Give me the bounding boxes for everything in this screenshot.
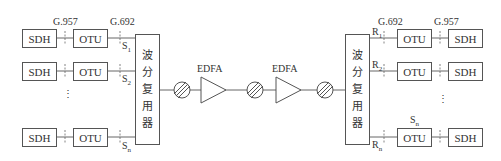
otu-box-rx-1: OTU	[397, 29, 432, 48]
ref-point-rn: Rn	[372, 140, 382, 151]
sdh-box-rx-2: SDH	[448, 62, 483, 81]
interface-label-g692-right: G.692	[378, 17, 403, 27]
ellipsis-rx: ⋮	[438, 97, 448, 101]
edfa-label-1: EDFA	[197, 64, 222, 74]
otu-box-rx-n: OTU	[397, 128, 432, 147]
mux-char: 用	[142, 98, 153, 115]
attenuator-icon	[317, 82, 333, 98]
ref-point-s1: S1	[122, 41, 131, 52]
edfa-label-2: EDFA	[272, 64, 297, 74]
otu-box-tx-2: OTU	[73, 62, 108, 81]
mux-char: 器	[142, 115, 153, 132]
attenuator-icon	[247, 82, 263, 98]
ref-point-r1: R1	[372, 27, 382, 38]
sdh-box-tx-n: SDH	[22, 128, 57, 147]
sdh-box-rx-n: SDH	[448, 128, 483, 147]
ellipsis-tx: ⋮	[63, 92, 73, 96]
ref-point-s2: S2	[122, 74, 131, 85]
sdh-box-tx-2: SDH	[22, 62, 57, 81]
demux-char: 器	[352, 115, 363, 132]
edfa-amplifier-icon	[201, 77, 226, 103]
edfa-amplifier-icon	[276, 77, 301, 103]
ref-point-sn-right: Sn	[410, 115, 419, 126]
demux-char: 波	[352, 47, 363, 64]
mux-char: 波	[142, 47, 153, 64]
ref-point-r2: R2	[372, 60, 382, 71]
ref-point-sn: Sn	[122, 141, 131, 152]
mux-char: 复	[142, 81, 153, 98]
demux-char: 复	[352, 81, 363, 98]
sdh-box-rx-1: SDH	[448, 29, 483, 48]
mux-char: 分	[142, 64, 153, 81]
otu-box-tx-1: OTU	[73, 29, 108, 48]
interface-label-g692-left: G.692	[110, 17, 135, 27]
demux-char: 分	[352, 64, 363, 81]
interface-label-g957-right: G.957	[434, 17, 459, 27]
wavelength-demultiplexer: 波 分 复 用 器	[345, 34, 370, 145]
wavelength-multiplexer: 波 分 复 用 器	[135, 34, 160, 145]
otu-box-tx-n: OTU	[73, 128, 108, 147]
interface-label-g957-left: G.957	[53, 17, 78, 27]
attenuator-icon	[174, 82, 190, 98]
demux-char: 用	[352, 98, 363, 115]
sdh-box-tx-1: SDH	[22, 29, 57, 48]
otu-box-rx-2: OTU	[397, 62, 432, 81]
